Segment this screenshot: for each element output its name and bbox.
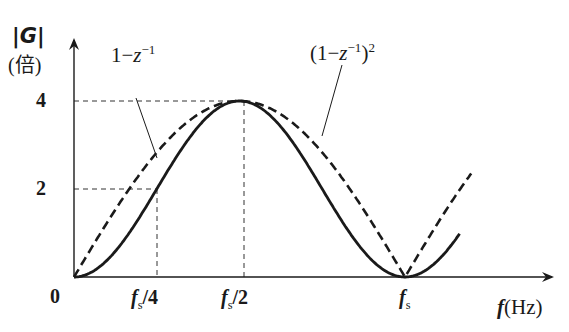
guide-lines (74, 101, 244, 277)
leader-line-solid (322, 65, 342, 136)
annotation-dashed: 1−z−1 (111, 42, 155, 68)
x-tick-fs: fs (399, 286, 411, 313)
x-tick-fs2: fs/2 (221, 286, 248, 313)
y-axis-unit: (倍) (8, 49, 41, 78)
chart-canvas (0, 0, 569, 332)
y-tick-4: 4 (36, 89, 46, 112)
y-tick-2: 2 (36, 177, 46, 200)
x-tick-fs4: fs/4 (131, 286, 158, 313)
x-tick-origin: 0 (50, 285, 60, 308)
x-axis-label: f(Hz) (497, 295, 542, 320)
series-1-minus-z-inv (74, 101, 471, 277)
leader-line-dashed (136, 98, 157, 158)
annotation-solid: (1−z−1)2 (310, 40, 375, 66)
y-axis-name: |G| (12, 24, 45, 49)
